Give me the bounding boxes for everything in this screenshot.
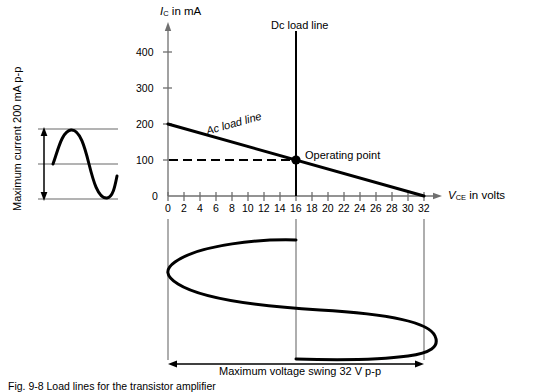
- x-tick-label-0: 0: [165, 203, 171, 214]
- x-tick-label-14: 14: [274, 203, 286, 214]
- current-waveform-panel: [38, 127, 118, 201]
- operating-point-label: Operating point: [305, 150, 380, 161]
- x-tick-label-32: 32: [418, 203, 430, 214]
- y-axis-units: in mA: [169, 5, 202, 17]
- x-tick-label-22: 22: [338, 203, 350, 214]
- x-axis-symbol: V: [448, 189, 456, 201]
- x-tick-label-6: 6: [213, 203, 219, 214]
- operating-point-marker: [291, 155, 300, 164]
- x-tick-label-24: 24: [354, 203, 366, 214]
- x-axis-subscript: CE: [456, 193, 466, 202]
- y-tick-label-300: 300: [136, 83, 154, 94]
- y-tick-label-200: 200: [136, 119, 154, 130]
- x-tick-label-12: 12: [258, 203, 270, 214]
- current-swing-label: Maximum current 200 mA p-p: [12, 67, 23, 211]
- load-line-graph: [163, 22, 442, 201]
- x-axis-arrowhead: [433, 193, 442, 199]
- x-tick-label-28: 28: [386, 203, 398, 214]
- x-tick-label-20: 20: [322, 203, 334, 214]
- x-tick-label-8: 8: [229, 203, 235, 214]
- x-tick-label-2: 2: [181, 203, 187, 214]
- y-tick-label-400: 400: [136, 47, 154, 58]
- y-axis-arrowhead: [165, 22, 171, 31]
- x-axis-title: VCE in volts: [448, 190, 505, 202]
- dc-load-line-label: Dc load line: [271, 20, 328, 31]
- voltage-sine-wave: [168, 240, 436, 360]
- x-tick-label-16: 16: [290, 203, 302, 214]
- x-axis-units: in volts: [466, 189, 505, 201]
- voltage-swing-label: Maximum voltage swing 32 V p-p: [219, 366, 381, 377]
- voltage-waveform-panel: [168, 219, 436, 367]
- y-tick-label-100: 100: [136, 155, 154, 166]
- x-tick-label-18: 18: [306, 203, 318, 214]
- x-tick-label-30: 30: [402, 203, 414, 214]
- y-axis-title: IC in mA: [160, 6, 201, 18]
- figure-caption: Fig. 9-8 Load lines for the transistor a…: [8, 381, 216, 392]
- y-tick-label-0: 0: [152, 191, 158, 202]
- x-tick-label-26: 26: [370, 203, 382, 214]
- x-tick-label-10: 10: [242, 203, 254, 214]
- x-tick-label-4: 4: [197, 203, 203, 214]
